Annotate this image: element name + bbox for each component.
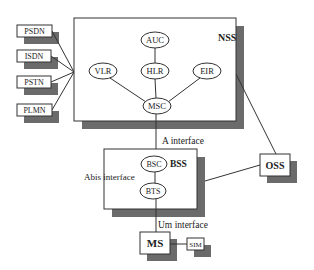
bts-label: BTS: [146, 187, 161, 196]
plmn-label: PLMN: [23, 106, 45, 115]
bss-label: BSS: [170, 159, 187, 169]
psdn-label: PSDN: [24, 27, 45, 36]
hlr-label: HLR: [147, 66, 164, 76]
sim-label: SIM: [189, 241, 202, 249]
ms-label: MS: [147, 237, 164, 249]
eir-label: EIR: [200, 66, 214, 76]
nss-label: NSS: [218, 32, 237, 43]
auc-label: AUC: [146, 35, 164, 45]
bsc-label: BSC: [146, 160, 161, 169]
um-interface-label: Um interface: [158, 220, 208, 230]
vlr-label: VLR: [95, 66, 112, 76]
edge-bss-oss: [205, 165, 260, 181]
isdn-label: ISDN: [25, 52, 44, 61]
msc-label: MSC: [148, 101, 166, 111]
a-interface-label: A interface: [162, 136, 204, 146]
oss-label: OSS: [266, 160, 285, 171]
pstn-label: PSTN: [24, 78, 44, 87]
gsm-architecture-diagram: NSS AUC VLR HLR EIR MSC PSDN ISDN PSTN P…: [0, 0, 314, 270]
abis-interface-label: Abis interface: [84, 172, 135, 182]
